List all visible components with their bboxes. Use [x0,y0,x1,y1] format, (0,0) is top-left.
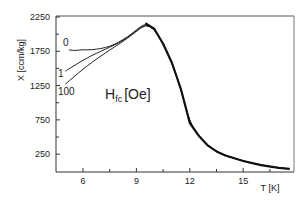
x-ticks: 691215 [80,168,269,186]
curves [65,23,289,169]
field-annotation: Hfc[Oe] [105,86,151,104]
y-tick-label: 1250 [30,81,50,91]
curve-label-0: 0 [63,37,69,48]
curve-1 [65,25,289,169]
y-tick-label: 750 [35,115,50,125]
y-tick-label: 2250 [30,12,50,22]
y-ticks: 250750125017502250 [30,12,60,159]
curve-0 [69,25,290,169]
curve-label-1: 1 [58,68,64,79]
curve-label-100: 100 [58,86,75,97]
plot-frame [56,16,294,172]
common-curve [145,23,289,169]
y-tick-label: 250 [35,149,50,159]
x-tick-label: 12 [185,176,195,186]
y-tick-label: 1750 [30,46,50,56]
y-axis-label: X [ccm/kg] [16,39,26,81]
x-tick-label: 15 [238,176,248,186]
x-tick-label: 6 [80,176,85,186]
curve-100 [65,26,289,169]
x-axis-label: T [K] [261,183,280,193]
x-tick-label: 9 [134,176,139,186]
chart: 250750125017502250 691215 01100 X [ccm/k… [0,0,307,202]
